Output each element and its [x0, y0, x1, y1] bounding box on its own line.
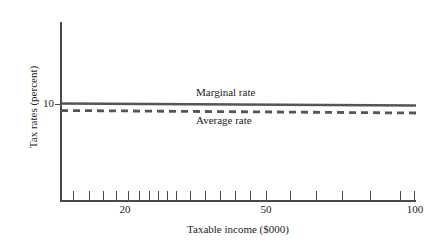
series-annotation-marginal-rate: Marginal rate — [196, 86, 255, 99]
series-line-average-rate — [61, 111, 416, 114]
x-axis-title: Taxable income ($000) — [60, 222, 416, 236]
series-annotation-average-rate: Average rate — [196, 114, 252, 127]
chart-figure: 10 20 50 100 Marginal rate Average rate … — [0, 0, 440, 244]
series-line-marginal-rate — [61, 104, 416, 106]
y-axis-title: Tax rates (percent) — [26, 27, 40, 187]
